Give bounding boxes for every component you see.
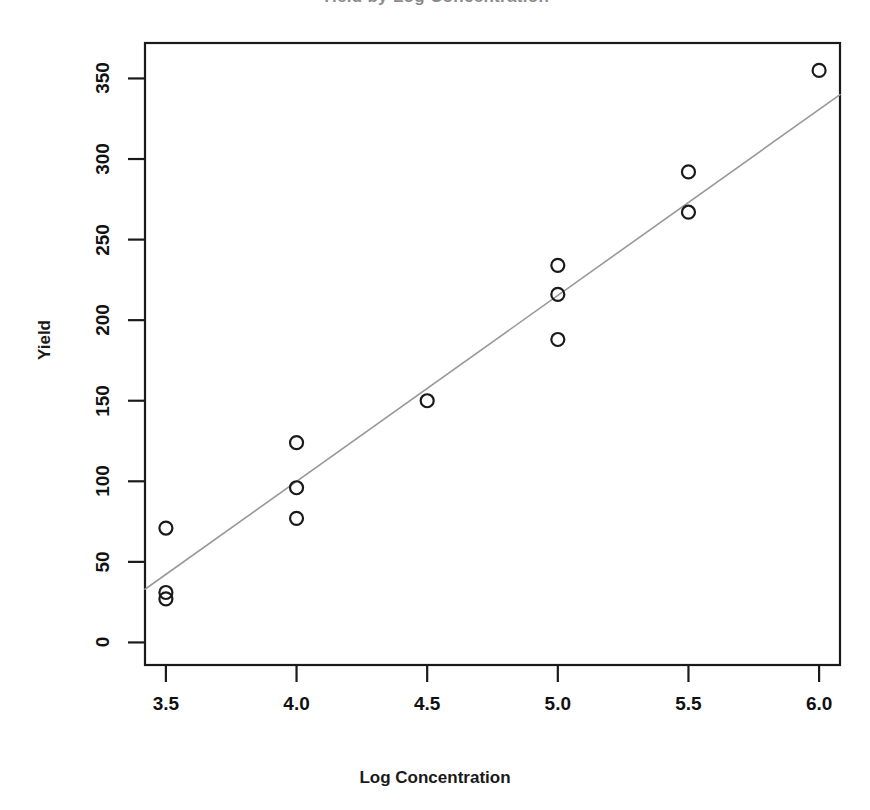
regression-line [145,95,840,590]
y-tick-label: 0 [92,637,114,648]
y-tick-label: 100 [92,465,114,497]
data-point [551,333,564,346]
x-tick-label: 3.5 [153,693,179,715]
y-tick-label: 50 [92,551,114,572]
x-tick-label: 5.0 [545,693,571,715]
data-point [421,394,434,407]
x-tick-label: 5.5 [675,693,701,715]
data-point [551,288,564,301]
x-tick-label: 4.0 [283,693,309,715]
data-point [682,206,695,219]
y-axis-ticks [128,78,145,642]
y-tick-label: 250 [92,224,114,256]
x-axis-title: Log Concentration [0,768,870,788]
data-point [290,436,303,449]
y-tick-label: 300 [92,143,114,175]
data-point [159,522,172,535]
data-points [159,64,825,606]
x-tick-label: 4.5 [414,693,440,715]
data-point [551,259,564,272]
plot-frame [145,43,840,665]
data-point [813,64,826,77]
data-point [290,481,303,494]
x-axis-ticks [166,665,819,682]
data-point [290,512,303,525]
y-axis-title: Yield [35,290,55,390]
plot-frame-rect [145,43,840,665]
regression-line-segment [145,95,840,590]
x-tick-label: 6.0 [806,693,832,715]
y-tick-label: 150 [92,385,114,417]
y-axis-title-wrapper: Yield [0,330,95,354]
y-tick-label: 200 [92,304,114,336]
y-tick-label: 350 [92,63,114,95]
scatter-plot-figure: Yield by Log Concentration 3.54.04.55.05… [0,0,870,810]
plot-canvas [0,0,870,810]
data-point [682,165,695,178]
